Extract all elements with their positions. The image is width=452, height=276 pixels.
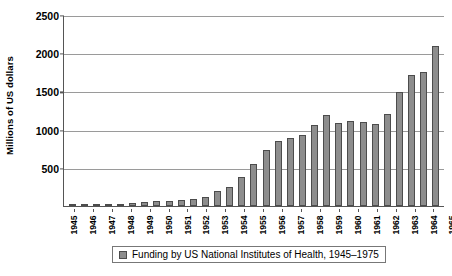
x-tick-mark-1959 — [339, 209, 340, 212]
bar-slot — [115, 16, 127, 206]
x-tick-label-1960: 1960 — [353, 216, 363, 235]
x-tick-label-1945: 1945 — [69, 216, 79, 235]
x-tick-slot: 1951 — [179, 209, 198, 243]
x-tick-label-1951: 1951 — [183, 216, 193, 235]
x-tick-mark-1957 — [301, 209, 302, 212]
x-tick-mark-1947 — [112, 209, 113, 212]
bar-1967 — [335, 123, 342, 206]
bar-slot — [309, 16, 321, 206]
bar-1946 — [81, 204, 88, 206]
bar-1966 — [323, 115, 330, 206]
x-tick-label-1957: 1957 — [297, 216, 307, 235]
bar-slot — [199, 16, 211, 206]
x-tick-slot: 1964 — [425, 209, 444, 243]
bar-slot — [381, 16, 393, 206]
bar-1948 — [105, 204, 112, 206]
x-tick-label-1948: 1948 — [126, 216, 136, 235]
bar-slot — [90, 16, 102, 206]
bar-slot — [418, 16, 430, 206]
bar-1945 — [69, 204, 76, 206]
bar-slot — [393, 16, 405, 206]
x-tick-label-1959: 1959 — [334, 216, 344, 235]
bar-1957 — [214, 191, 221, 206]
x-tick-label-1963: 1963 — [410, 216, 420, 235]
bar-1956 — [202, 197, 209, 206]
bar-slot — [260, 16, 272, 206]
x-axis-tick-labels: 1945194619471948194919501951195219531954… — [63, 209, 444, 243]
x-tick-slot: 1948 — [122, 209, 141, 243]
x-tick-mark-1958 — [320, 209, 321, 212]
x-tick-label-1962: 1962 — [391, 216, 401, 235]
bar-1965 — [311, 125, 318, 206]
bar-1951 — [141, 202, 148, 206]
bar-slot — [163, 16, 175, 206]
bar-slot — [187, 16, 199, 206]
y-tick-label-2500: 2500 — [36, 10, 59, 22]
bar-1974 — [420, 72, 427, 206]
bar-slot — [296, 16, 308, 206]
y-tick-label-500: 500 — [41, 163, 59, 175]
bar-slot — [212, 16, 224, 206]
x-tick-label-1950: 1950 — [164, 216, 174, 235]
x-tick-slot: 1954 — [235, 209, 254, 243]
x-tick-mark-1964 — [433, 209, 434, 212]
x-tick-slot: 1965 — [443, 209, 452, 243]
x-tick-mark-1953 — [225, 209, 226, 212]
bar-1971 — [384, 114, 391, 206]
x-tick-mark-1946 — [93, 209, 94, 212]
legend-label: Funding by US National Institutes of Hea… — [132, 249, 379, 260]
bar-1952 — [153, 201, 160, 206]
x-tick-slot: 1958 — [311, 209, 330, 243]
x-tick-mark-1955 — [263, 209, 264, 212]
x-tick-slot: 1961 — [368, 209, 387, 243]
x-tick-slot: 1946 — [84, 209, 103, 243]
bar-1962 — [275, 141, 282, 206]
x-tick-mark-1960 — [358, 209, 359, 212]
bar-1959 — [238, 177, 245, 206]
bar-slot — [151, 16, 163, 206]
x-tick-label-1965: 1965 — [448, 216, 452, 235]
x-tick-mark-1950 — [169, 209, 170, 212]
y-tick-label-1000: 1000 — [36, 125, 59, 137]
bar-series — [64, 16, 444, 206]
x-tick-mark-1962 — [396, 209, 397, 212]
bar-slot — [224, 16, 236, 206]
bar-1958 — [226, 187, 233, 206]
x-tick-slot: 1957 — [292, 209, 311, 243]
bar-slot — [78, 16, 90, 206]
x-tick-slot: 1959 — [330, 209, 349, 243]
x-tick-mark-1949 — [150, 209, 151, 212]
y-tick-label-1500: 1500 — [36, 86, 59, 98]
x-tick-mark-1961 — [377, 209, 378, 212]
x-tick-label-1952: 1952 — [202, 216, 212, 235]
bar-1964 — [299, 135, 306, 206]
bar-1953 — [166, 201, 173, 206]
bar-1949 — [117, 204, 124, 206]
bar-slot — [127, 16, 139, 206]
y-axis-title-text: Millions of US dollars — [4, 56, 15, 155]
x-tick-label-1949: 1949 — [145, 216, 155, 235]
bar-slot — [102, 16, 114, 206]
x-tick-slot: 1960 — [349, 209, 368, 243]
x-tick-mark-1951 — [187, 209, 188, 212]
x-tick-slot: 1952 — [197, 209, 216, 243]
bar-slot — [272, 16, 284, 206]
bar-slot — [66, 16, 78, 206]
bar-slot — [430, 16, 442, 206]
bar-slot — [248, 16, 260, 206]
x-tick-mark-1945 — [74, 209, 75, 212]
bar-slot — [357, 16, 369, 206]
y-axis-title: Millions of US dollars — [0, 0, 18, 210]
bar-1968 — [347, 121, 354, 206]
bar-slot — [333, 16, 345, 206]
x-tick-slot: 1955 — [254, 209, 273, 243]
bar-1963 — [287, 138, 294, 206]
x-tick-label-1954: 1954 — [240, 216, 250, 235]
bar-1973 — [408, 75, 415, 206]
bar-1954 — [178, 200, 185, 206]
x-tick-slot: 1962 — [387, 209, 406, 243]
x-tick-label-1956: 1956 — [278, 216, 288, 235]
bar-1947 — [93, 204, 100, 206]
x-tick-label-1964: 1964 — [429, 216, 439, 235]
bar-slot — [321, 16, 333, 206]
